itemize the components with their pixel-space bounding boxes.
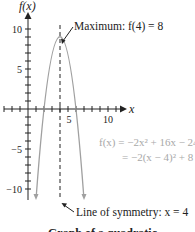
symmetry-label: Line of symmetry: x = 4	[76, 206, 188, 219]
y-axis-arrow-icon	[25, 12, 32, 19]
symmetry-pointer	[64, 205, 74, 212]
x-axis	[4, 106, 127, 113]
x-axis-label: x	[128, 102, 135, 116]
figure-caption: Graph of a quadratic	[48, 226, 158, 232]
equation-line-1: f(x) = −2x² + 16x − 24	[99, 136, 195, 149]
equation-line-2: = −2(x − 4)² + 8	[122, 151, 194, 164]
curve-arrow-left-icon	[34, 194, 39, 200]
y-tick-10: 10	[12, 24, 22, 35]
y-tick-5: 5	[17, 64, 22, 75]
x-tick-10: 10	[103, 114, 113, 125]
x-axis-arrow-icon	[120, 106, 127, 113]
chart: f(x) x 10 5 −5 −10 5 10 Maximum: f(4) = …	[0, 0, 195, 232]
y-axis	[25, 12, 32, 200]
y-tick-neg5: −5	[11, 144, 22, 155]
maximum-pointer	[63, 27, 73, 41]
y-axis-label: f(x)	[19, 0, 36, 13]
x-tick-5: 5	[67, 114, 72, 125]
curve-arrow-right-icon	[82, 194, 87, 200]
maximum-label: Maximum: f(4) = 8	[74, 20, 163, 33]
y-tick-neg10: −10	[6, 184, 22, 195]
